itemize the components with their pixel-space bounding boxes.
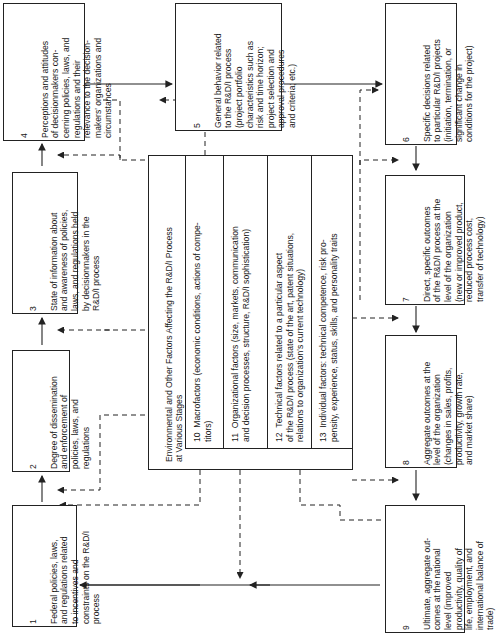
factor-12-technical: 12 Technical factors related to a partic…	[267, 156, 311, 448]
box-2-number: 2	[28, 355, 39, 469]
box-3-number: 3	[28, 177, 39, 311]
box-2-dissemination: 2 Degree of dissemination and enforcemen…	[12, 350, 70, 472]
box-4-number: 4	[19, 8, 30, 138]
environmental-factors-title: Environmental and Other Factors Affectin…	[153, 162, 185, 462]
box-5-text: General behavior related to the R&D/I pr…	[213, 33, 297, 128]
box-3-information-awareness: 3 State of information about and awarene…	[12, 172, 78, 314]
box-9-number: 9	[401, 510, 412, 630]
box-9-text: Ultimate, aggregate out- comes at the na…	[422, 538, 496, 630]
box-7-text: Direct, specific outcomes of the R&D/I p…	[422, 199, 485, 302]
factor-13-individual: 13 Individual factors: technical compete…	[311, 156, 354, 448]
box-6-specific-decisions: 6 Specific decisions related to particul…	[385, 3, 457, 145]
box-8-number: 8	[401, 340, 412, 465]
box-9-national-outcomes: 9 Ultimate, aggregate out- comes at the …	[385, 505, 465, 633]
factors-table: 10 Macrofactors (economic conditions, ac…	[185, 156, 352, 449]
box-7-number: 7	[401, 180, 412, 302]
box-3-text: State of information about and awareness…	[49, 210, 101, 311]
factor-11-organizational: 11 Organizational factors (size, markets…	[223, 156, 267, 448]
box-1-number: 1	[28, 510, 39, 624]
box-1-federal-policies: 1 Federal policies, laws, and regulation…	[12, 505, 77, 627]
box-2-text: Degree of dissemination and enforcement …	[49, 376, 91, 469]
box-5-number: 5	[192, 8, 203, 128]
box-6-number: 6	[401, 8, 412, 142]
factor-10-macrofactors: 10 Macrofactors (economic conditions, ac…	[185, 156, 223, 448]
box-4-perceptions-attitudes: 4 Perceptions and attitudes of decisionm…	[3, 3, 85, 141]
environmental-factors-box: Environmental and Other Factors Affectin…	[148, 155, 353, 470]
box-7-direct-outcomes: 7 Direct, specific outcomes of the R&D/I…	[385, 175, 465, 305]
box-5-general-behavior: 5 General behavior related to the R&D/I …	[175, 3, 282, 131]
box-6-text: Specific decisions related to particular…	[422, 39, 474, 142]
box-1-text: Federal policies, laws, and regulations …	[49, 531, 101, 624]
box-4-text: Perceptions and attitudes of decisionmak…	[40, 38, 114, 138]
box-8-aggregate-outcomes: 8 Aggregate outcomes at the level of the…	[385, 335, 457, 468]
box-8-text: Aggregate outcomes at the level of the o…	[422, 362, 474, 465]
